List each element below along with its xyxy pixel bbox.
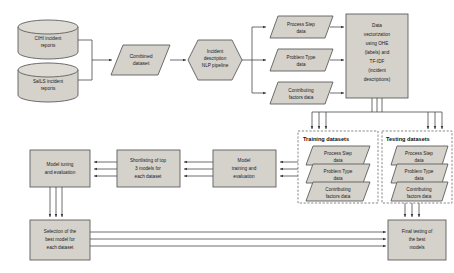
shortlisting-line2: 3 models for [135, 166, 161, 171]
model-training-line3: evaluation [233, 174, 255, 179]
training-item-process-step[interactable]: Process Step data [306, 146, 370, 165]
data-contributing-line2: factors data [289, 95, 314, 100]
source-sails[interactable]: SaILS incident reports [18, 63, 78, 102]
data-process-step-line1: Process Step [287, 22, 315, 27]
training-problem-type-line2: data [333, 176, 343, 181]
stage-nlp-pipeline[interactable]: Incident description NLP pipeline [188, 40, 242, 80]
data-process-step-line2: data [296, 29, 306, 34]
final-testing-line1: Final testing of [402, 229, 433, 234]
source-cihi-line2: reports [41, 43, 56, 48]
connector-training-to-model [280, 162, 298, 176]
source-sails-line2: reports [41, 86, 56, 91]
source-cihi-line1: CIHI incident [35, 36, 63, 41]
data-problem-type-line1: Problem Type [287, 55, 316, 60]
vectorization-line4: (labels) and [365, 50, 390, 55]
training-process-step-line1: Process Step [324, 151, 352, 156]
flowchart-canvas: CIHI incident reports SaILS incident rep… [0, 0, 454, 273]
shortlisting-line3: each dataset [135, 174, 163, 179]
group-training-datasets[interactable]: Training datasets Process Step data Prob… [298, 131, 378, 203]
combined-label-line2: dataset [133, 60, 150, 66]
testing-item-problem-type[interactable]: Problem Type data [391, 164, 448, 183]
connector-sources-to-combined [78, 40, 112, 80]
training-item-problem-type[interactable]: Problem Type data [306, 164, 370, 183]
testing-contributing-line2: factors data [407, 194, 432, 199]
testing-item-contributing[interactable]: Contributing factors data [391, 182, 448, 201]
vectorization-line7: descriptions) [364, 77, 391, 82]
data-contributing-factors[interactable]: Contributing factors data [270, 82, 333, 104]
data-contributing-line1: Contributing [288, 88, 314, 93]
training-contributing-line2: factors data [326, 194, 351, 199]
model-training-line2: training and [232, 166, 257, 171]
vectorization-line6: (incident [368, 68, 386, 73]
source-cihi[interactable]: CIHI incident reports [18, 20, 78, 59]
connector-testing-to-final [405, 203, 419, 217]
stage-model-tuning[interactable]: Model tuning and evaluation [30, 150, 90, 187]
nlp-label-line1: Incident [207, 49, 224, 54]
model-tuning-line1: Model tuning [47, 162, 74, 167]
stage-model-training[interactable]: Model training and evaluation [213, 150, 276, 187]
nlp-label-line2: description [204, 56, 227, 61]
connector-selection-to-final [90, 232, 386, 246]
model-training-line1: Model [238, 158, 251, 163]
selection-line2: best model for [45, 237, 75, 242]
selection-line1: Selection of the [44, 229, 77, 234]
testing-contributing-line1: Contributing [406, 187, 432, 192]
final-testing-line3: models [409, 245, 425, 250]
vectorization-line3: using OHE [366, 41, 389, 46]
stage-combined-dataset[interactable]: Combined dataset [111, 45, 170, 75]
training-contributing-line1: Contributing [325, 187, 351, 192]
vectorization-line5: TF-IDF [370, 59, 385, 64]
training-item-contributing[interactable]: Contributing factors data [306, 182, 370, 201]
combined-label-line1: Combined [129, 53, 152, 59]
stage-shortlisting[interactable]: Shortlisting of top 3 models for each da… [117, 150, 180, 187]
connector-model-to-shortlisting [184, 162, 213, 176]
training-process-step-line2: data [333, 158, 343, 163]
selection-line3: each dataset [47, 245, 75, 250]
connector-shortlisting-to-tuning [94, 162, 117, 176]
group-testing-datasets[interactable]: Testing datasets Process Step data Probl… [382, 131, 452, 203]
training-problem-type-line1: Problem Type [324, 169, 353, 174]
shortlisting-line1: Shortlisting of top [130, 158, 167, 163]
vectorization-line2: vectorization [364, 32, 391, 37]
testing-item-process-step[interactable]: Process Step data [391, 146, 448, 165]
final-testing-line2: the best [409, 237, 426, 242]
data-problem-type[interactable]: Problem Type data [270, 49, 333, 71]
testing-datasets-header: Testing datasets [386, 136, 430, 142]
flowchart-svg: CIHI incident reports SaILS incident rep… [0, 0, 454, 273]
training-datasets-header: Training datasets [303, 136, 349, 142]
stage-selection[interactable]: Selection of the best model for each dat… [30, 220, 90, 260]
connector-vectorization-split [312, 98, 442, 129]
stage-vectorization[interactable]: Data vectorization using OHE (labels) an… [346, 14, 408, 98]
stage-final-testing[interactable]: Final testing of the best models [388, 220, 446, 260]
model-tuning-line2: and evaluation [45, 170, 76, 175]
testing-process-step-line1: Process Step [405, 151, 433, 156]
vectorization-line1: Data [372, 23, 382, 28]
testing-problem-type-line1: Problem Type [405, 169, 434, 174]
data-process-step[interactable]: Process Step data [270, 16, 333, 38]
connector-tuning-to-selection [50, 187, 62, 217]
connector-nlp-split [242, 27, 266, 93]
testing-problem-type-line2: data [414, 176, 424, 181]
source-sails-line1: SaILS incident [33, 79, 64, 84]
nlp-label-line3: NLP pipeline [202, 63, 229, 68]
testing-process-step-line2: data [414, 158, 424, 163]
data-problem-type-line2: data [296, 62, 306, 67]
